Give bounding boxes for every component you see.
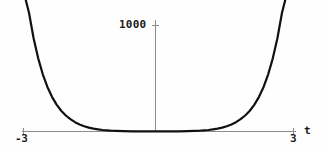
- plot-figure: 1000 -3 3 t: [0, 0, 324, 152]
- x-axis-name-label: t: [304, 125, 311, 136]
- x-axis-tick-label-min: -3: [15, 133, 28, 144]
- plot-canvas: [0, 0, 324, 152]
- x-axis-tick-label-max: 3: [290, 133, 297, 144]
- y-axis-tick-label-1000: 1000: [119, 19, 146, 30]
